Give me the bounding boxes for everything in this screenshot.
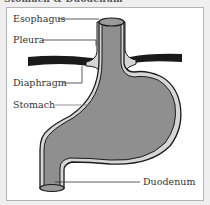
duodenum-opening [40,185,64,192]
label-esophagus: Esophagus [13,13,66,24]
label-stomach: Stomach [13,99,55,110]
stomach-diagram: Esophagus Pleura Diaphragm Stomach Duode… [0,0,210,205]
label-duodenum: Duodenum [143,176,195,187]
label-diaphragm: Diaphragm [13,77,67,88]
esophagus-opening [99,18,124,26]
pleura-leader [42,40,96,46]
label-pleura: Pleura [13,34,45,45]
